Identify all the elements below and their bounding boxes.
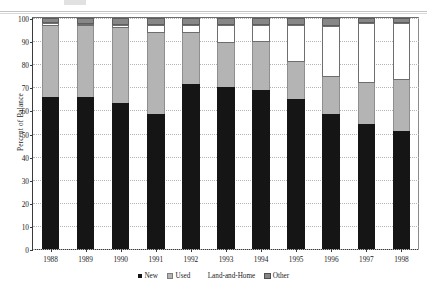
y-tick-label: 50 <box>22 130 29 139</box>
x-tick-label: 1995 <box>289 255 304 264</box>
stacked-bar[interactable] <box>322 18 340 249</box>
bar-group[interactable]: 1995 <box>279 18 314 249</box>
x-tick-mark <box>86 249 87 252</box>
legend-item[interactable]: Other <box>264 272 289 280</box>
bar-segment[interactable] <box>112 103 130 249</box>
bar-segment[interactable] <box>252 18 270 25</box>
bar-segment[interactable] <box>77 26 95 96</box>
y-tick-label: 40 <box>22 153 29 162</box>
bar-group[interactable]: 1996 <box>314 18 349 249</box>
legend-item[interactable]: Used <box>167 272 190 280</box>
bar-segment[interactable] <box>252 42 270 89</box>
stacked-bar[interactable] <box>393 18 411 249</box>
bar-group[interactable]: 1990 <box>103 18 138 249</box>
bar-segment[interactable] <box>217 18 235 25</box>
scan-artifact-line <box>0 11 427 12</box>
x-tick-label: 1990 <box>113 255 128 264</box>
y-tick-label: 70 <box>22 84 29 93</box>
bar-segment[interactable] <box>112 25 130 28</box>
bar-group[interactable]: 1998 <box>384 18 419 249</box>
bar-segment[interactable] <box>112 28 130 103</box>
bar-segment[interactable] <box>217 43 235 87</box>
bar-segment[interactable] <box>322 18 340 26</box>
bar-segment[interactable] <box>393 18 411 23</box>
scan-artifact-smudge <box>64 0 86 5</box>
stacked-bar[interactable] <box>252 18 270 249</box>
bar-group[interactable]: 1994 <box>244 18 279 249</box>
bar-segment[interactable] <box>322 77 340 114</box>
stacked-bar[interactable] <box>77 18 95 249</box>
x-tick-label: 1994 <box>254 255 269 264</box>
bar-segment[interactable] <box>42 26 60 96</box>
bar-segment[interactable] <box>393 80 411 131</box>
stacked-bar[interactable] <box>112 18 130 249</box>
x-tick-mark <box>331 249 332 252</box>
legend-swatch-icon <box>264 273 271 280</box>
legend-item[interactable]: Land-and-Home <box>199 272 255 280</box>
bar-segment[interactable] <box>217 87 235 249</box>
x-tick-mark <box>261 249 262 252</box>
bar-segment[interactable] <box>42 23 60 26</box>
x-tick-label: 1998 <box>394 255 409 264</box>
bar-segment[interactable] <box>252 25 270 42</box>
bar-segment[interactable] <box>217 25 235 43</box>
y-tick-label: 30 <box>22 176 29 185</box>
stacked-bar[interactable] <box>182 18 200 249</box>
bar-group[interactable]: 1993 <box>208 18 243 249</box>
legend-label: Other <box>273 272 289 280</box>
stacked-bar[interactable] <box>358 18 376 249</box>
bar-segment[interactable] <box>322 26 340 77</box>
bar-group[interactable]: 1991 <box>138 18 173 249</box>
bar-segment[interactable] <box>358 124 376 249</box>
bar-segment[interactable] <box>147 114 165 249</box>
x-tick-label: 1997 <box>359 255 374 264</box>
bar-segment[interactable] <box>147 33 165 114</box>
y-tick-label: 60 <box>22 107 29 116</box>
chart-legend: NewUsedLand-and-HomeOther <box>0 272 427 280</box>
bar-segment[interactable] <box>287 62 305 99</box>
legend-swatch-icon <box>199 273 206 280</box>
bar-segment[interactable] <box>182 84 200 249</box>
bar-group[interactable]: 1988 <box>33 18 68 249</box>
bar-segment[interactable] <box>147 25 165 33</box>
y-tick-label: 20 <box>22 199 29 208</box>
bar-segment[interactable] <box>252 90 270 249</box>
bar-segment[interactable] <box>182 25 200 33</box>
x-tick-mark <box>191 249 192 252</box>
x-tick-label: 1988 <box>43 255 58 264</box>
bar-series-layer: 1988198919901991199219931994199519961997… <box>33 18 419 249</box>
y-tick-label: 0 <box>25 246 29 255</box>
bar-group[interactable]: 1997 <box>349 18 384 249</box>
scan-artifact-line-secondary <box>0 13 427 14</box>
bar-segment[interactable] <box>358 23 376 83</box>
stacked-bar[interactable] <box>217 18 235 249</box>
bar-group[interactable]: 1992 <box>173 18 208 249</box>
bar-segment[interactable] <box>182 33 200 84</box>
bar-segment[interactable] <box>182 18 200 25</box>
bar-segment[interactable] <box>112 18 130 25</box>
stacked-bar[interactable] <box>42 18 60 249</box>
stacked-bar[interactable] <box>287 18 305 249</box>
bar-segment[interactable] <box>287 25 305 62</box>
y-tick-label: 90 <box>22 38 29 47</box>
x-tick-mark <box>156 249 157 252</box>
bar-segment[interactable] <box>287 99 305 249</box>
legend-item[interactable]: New <box>138 272 158 280</box>
bar-group[interactable]: 1989 <box>68 18 103 249</box>
y-tick-label: 10 <box>22 222 29 231</box>
bar-segment[interactable] <box>393 23 411 81</box>
bar-segment[interactable] <box>42 97 60 249</box>
bar-segment[interactable] <box>42 18 60 23</box>
x-tick-label: 1993 <box>219 255 234 264</box>
bar-segment[interactable] <box>77 97 95 249</box>
bar-segment[interactable] <box>147 18 165 25</box>
stacked-bar[interactable] <box>147 18 165 249</box>
bar-segment[interactable] <box>358 18 376 23</box>
bar-segment[interactable] <box>322 114 340 249</box>
bar-segment[interactable] <box>358 83 376 125</box>
bar-segment[interactable] <box>287 18 305 25</box>
bar-segment[interactable] <box>393 131 411 249</box>
x-tick-label: 1991 <box>149 255 164 264</box>
bar-segment[interactable] <box>77 18 95 24</box>
bar-segment[interactable] <box>77 24 95 26</box>
